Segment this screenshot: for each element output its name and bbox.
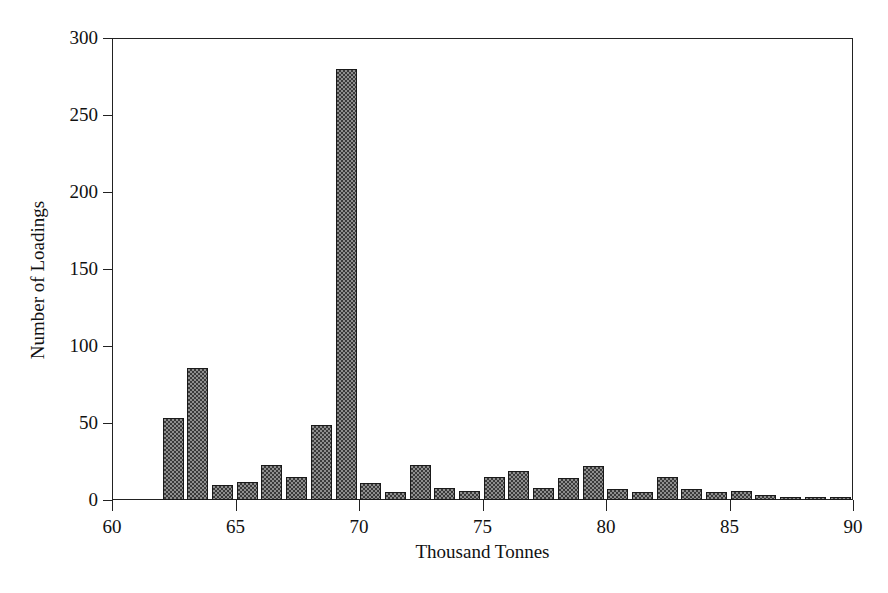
histogram-bar bbox=[731, 491, 752, 500]
x-tick-85 bbox=[730, 500, 731, 511]
y-ticklabel-0: 0 bbox=[42, 490, 98, 509]
x-ticklabel-65: 65 bbox=[206, 516, 266, 538]
x-tick-80 bbox=[606, 500, 607, 511]
histogram-bar bbox=[681, 489, 702, 500]
histogram-bar bbox=[484, 477, 505, 500]
histogram-bar bbox=[311, 425, 332, 500]
histogram-bar bbox=[830, 497, 851, 500]
histogram-bar bbox=[261, 465, 282, 500]
histogram-bar bbox=[163, 418, 184, 500]
x-ticklabel-75: 75 bbox=[453, 516, 513, 538]
y-ticklabel-150: 150 bbox=[42, 259, 98, 278]
histogram-bar bbox=[434, 488, 455, 500]
histogram-bar bbox=[657, 477, 678, 500]
histogram-bar bbox=[805, 497, 826, 500]
x-ticklabel-85: 85 bbox=[700, 516, 760, 538]
histogram-bar bbox=[187, 368, 208, 500]
histogram-bar bbox=[212, 485, 233, 500]
x-tick-60 bbox=[112, 500, 113, 511]
x-ticklabel-60: 60 bbox=[82, 516, 142, 538]
x-tick-65 bbox=[236, 500, 237, 511]
histogram-bar bbox=[237, 482, 258, 500]
histogram-bar bbox=[508, 471, 529, 500]
y-ticklabel-300: 300 bbox=[42, 28, 98, 47]
histogram-bar bbox=[385, 492, 406, 500]
histogram-bar bbox=[780, 497, 801, 500]
histogram-bar bbox=[755, 495, 776, 500]
histogram-bar bbox=[583, 466, 604, 500]
histogram-bar bbox=[336, 69, 357, 500]
y-ticklabel-250: 250 bbox=[42, 105, 98, 124]
y-axis-title: Number of Loadings bbox=[27, 160, 49, 400]
histogram-bar bbox=[558, 478, 579, 500]
histogram-bar bbox=[410, 465, 431, 500]
histogram-figure: 300 250 200 150 100 50 0 60657075808590 … bbox=[0, 0, 888, 593]
x-tick-75 bbox=[483, 500, 484, 511]
x-ticklabel-70: 70 bbox=[329, 516, 389, 538]
histogram-bar bbox=[286, 477, 307, 500]
histogram-bar bbox=[632, 492, 653, 500]
y-ticklabel-50: 50 bbox=[42, 413, 98, 432]
x-ticklabel-80: 80 bbox=[576, 516, 636, 538]
histogram-bar bbox=[459, 491, 480, 500]
histogram-bar bbox=[706, 492, 727, 500]
histogram-bar bbox=[607, 489, 628, 500]
x-ticklabel-90: 90 bbox=[823, 516, 883, 538]
bars-container bbox=[112, 38, 853, 500]
histogram-bar bbox=[360, 483, 381, 500]
x-tick-90 bbox=[853, 500, 854, 511]
y-ticklabel-100: 100 bbox=[42, 336, 98, 355]
x-axis-title: Thousand Tonnes bbox=[112, 541, 853, 563]
histogram-bar bbox=[533, 488, 554, 500]
y-ticklabel-200: 200 bbox=[42, 182, 98, 201]
x-tick-70 bbox=[359, 500, 360, 511]
